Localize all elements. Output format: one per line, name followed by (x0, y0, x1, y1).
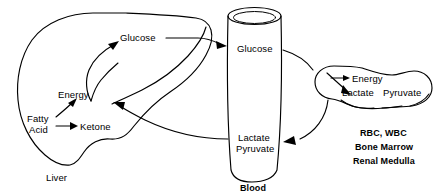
liver-fatty-acid-label-line2: Acid (29, 124, 48, 135)
liver-fatty-acid-label-line1: Fatty (27, 113, 49, 124)
arrow-peripheral-to-blood-line (300, 100, 328, 139)
arrow-blood-to-peripheral-line (283, 50, 313, 70)
blood-vessel-top-outer (228, 8, 281, 25)
arrow-head-peripheral-energy (343, 75, 350, 81)
peripheral-lactate-label: Lactate (342, 87, 374, 98)
blood-vessel-body (227, 16, 281, 182)
liver-ketone-label: Ketone (80, 121, 111, 132)
liver-outline (18, 13, 212, 165)
peripheral-pyruvate-label: Pyruvate (383, 87, 421, 98)
blood-caption: Blood (240, 183, 266, 194)
arrow-head-blood-lactate (283, 136, 296, 145)
arrow-head-ketone (70, 122, 78, 130)
blood-pyruvate-label: Pyruvate (236, 143, 274, 154)
liver-energy-label: Energy (58, 89, 89, 100)
arrow-head-to-liver (113, 102, 125, 110)
peripheral-caption-line-3: Renal Medulla (353, 156, 415, 167)
liver-glucose-label: Glucose (120, 32, 156, 43)
arrow-head-to-liver-glucose (108, 41, 119, 50)
peripheral-energy-label: Energy (352, 73, 383, 84)
peripheral-caption-line-1: RBC, WBC (360, 128, 407, 139)
blood-lactate-label: Lactate (238, 132, 270, 143)
blood-vessel-top-inner (234, 12, 276, 24)
metabolism-diagram: Glucose Energy Fatty Acid Ketone Liver G… (0, 0, 444, 196)
liver-lobe-divider (91, 63, 118, 101)
liver-gluconeogenesis-curve (87, 44, 115, 101)
peripheral-tissue-lower-dash-2 (382, 106, 402, 108)
liver-caption: Liver (46, 172, 67, 183)
peripheral-caption-line-2: Bone Marrow (355, 142, 413, 153)
arrow-head-blood-glucose (216, 41, 227, 49)
blood-glucose-label: Glucose (237, 43, 273, 54)
